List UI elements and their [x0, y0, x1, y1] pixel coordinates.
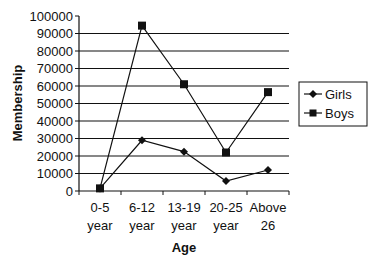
x-tick-label: 6-12	[129, 200, 155, 215]
x-tick-label: 13-19	[167, 200, 200, 215]
diamond-marker-icon	[180, 148, 188, 156]
diamond-marker-icon	[222, 177, 230, 185]
square-icon	[310, 110, 317, 117]
y-tick-label: 30000	[37, 131, 73, 146]
legend-label-girls: Girls	[325, 87, 352, 102]
square-marker-icon	[222, 149, 230, 157]
x-axis: 0-5year6-12year13-19year20-25yearAbove26	[79, 191, 289, 233]
y-tick-label: 80000	[37, 44, 73, 59]
line-chart: 0100002000030000400005000060000700008000…	[0, 0, 371, 262]
series-line-boys	[100, 26, 268, 189]
diamond-marker-icon	[264, 166, 272, 174]
y-tick-label: 20000	[37, 149, 73, 164]
data-series	[96, 22, 272, 193]
x-tick-label: year	[129, 218, 155, 233]
y-tick-label: 50000	[37, 96, 73, 111]
y-tick-label: 60000	[37, 79, 73, 94]
y-axis: 0100002000030000400005000060000700008000…	[30, 9, 79, 199]
square-marker-icon	[96, 184, 104, 192]
square-marker-icon	[180, 80, 188, 88]
y-tick-label: 100000	[30, 9, 73, 24]
legend: Girls Boys	[299, 82, 367, 126]
y-tick-label: 40000	[37, 114, 73, 129]
y-tick-label: 90000	[37, 26, 73, 41]
x-tick-label: year	[87, 218, 113, 233]
y-tick-label: 0	[66, 184, 73, 199]
x-axis-title: Age	[172, 240, 197, 255]
square-marker-icon	[264, 88, 272, 96]
y-tick-label: 70000	[37, 61, 73, 76]
legend-label-boys: Boys	[325, 106, 354, 121]
square-marker-icon	[138, 22, 146, 30]
x-tick-label: 0-5	[91, 200, 110, 215]
x-tick-label: Above	[250, 200, 287, 215]
x-tick-label: 20-25	[209, 200, 242, 215]
x-tick-label: year	[171, 218, 197, 233]
x-tick-label: year	[213, 218, 239, 233]
y-tick-label: 10000	[37, 166, 73, 181]
x-tick-label: 26	[261, 218, 275, 233]
y-axis-title: Membership	[10, 65, 25, 142]
series-line-girls	[100, 140, 268, 188]
